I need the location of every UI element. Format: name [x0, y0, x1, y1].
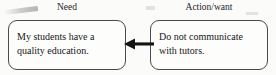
diagram-canvas: Need Action/want My students have a qual…	[0, 0, 276, 75]
column-label-action: Action/want	[150, 1, 268, 13]
node-need-text: My students have a quality education.	[17, 30, 118, 57]
node-need[interactable]: My students have a quality education.	[8, 20, 126, 70]
node-action[interactable]: Do not communicate with tutors.	[150, 20, 268, 70]
arrow-action-to-need	[124, 36, 154, 52]
arrow-left-icon	[124, 36, 154, 52]
column-label-need: Need	[8, 1, 126, 13]
node-action-text: Do not communicate with tutors.	[159, 30, 260, 57]
